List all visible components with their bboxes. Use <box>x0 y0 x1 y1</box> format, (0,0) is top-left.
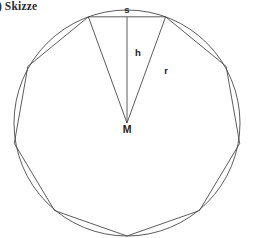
geometry-figure: s h r M <box>0 0 254 238</box>
radius-label: r <box>164 65 168 76</box>
figure-canvas: s h r M <box>0 0 254 238</box>
side-label: s <box>124 4 129 15</box>
center-label: M <box>123 123 132 135</box>
apothem-label: h <box>135 47 141 58</box>
radius-line-right <box>127 17 166 123</box>
radius-line-left <box>88 17 127 123</box>
sketch-page: ) Skizze s h r M <box>0 0 254 238</box>
